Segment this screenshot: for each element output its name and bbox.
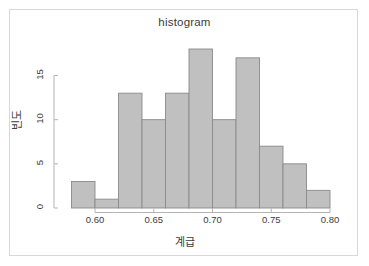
x-tick-label: 0.70 (193, 214, 233, 225)
histogram-bar (213, 120, 237, 208)
x-tick-label: 0.60 (75, 214, 115, 225)
y-tick-label: 10 (34, 109, 45, 127)
histogram-bar (307, 190, 331, 208)
y-tick-label: 15 (34, 65, 45, 83)
histogram-bar (72, 182, 96, 209)
histogram-bar (142, 120, 166, 208)
histogram-bar (260, 146, 284, 208)
y-tick-label: 0 (34, 198, 45, 216)
figure-canvas: histogram 0.600.650.700.750.80 051015 계급… (0, 0, 369, 266)
histogram-bar (283, 164, 307, 208)
x-tick-label: 0.65 (134, 214, 174, 225)
histogram-bar (119, 93, 143, 208)
x-tick-label: 0.80 (310, 214, 350, 225)
x-tick-label: 0.75 (251, 214, 291, 225)
histogram-plot (0, 0, 369, 266)
y-axis-label: 빈도 (8, 85, 24, 155)
plot-area: histogram 0.600.650.700.750.80 051015 계급… (0, 0, 369, 266)
histogram-bar (95, 199, 119, 208)
y-tick-label: 5 (34, 153, 45, 171)
histogram-bar (236, 58, 260, 208)
bars-group (72, 49, 331, 208)
histogram-bar (189, 49, 213, 208)
histogram-bar (166, 93, 190, 208)
x-axis-label: 계급 (0, 233, 369, 249)
